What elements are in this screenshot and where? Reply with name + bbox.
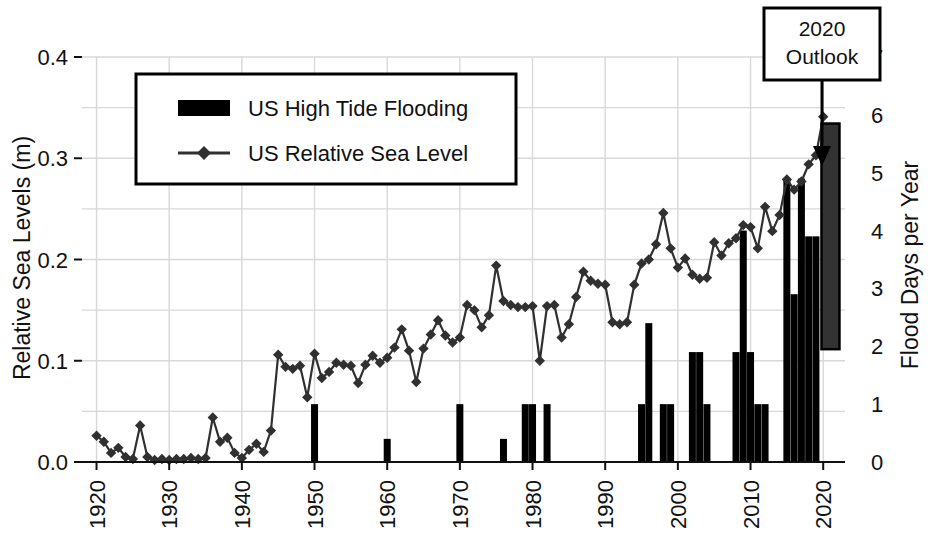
sea-level-marker [753, 243, 763, 253]
sea-level-marker [665, 243, 675, 253]
y2-tick-label: 1 [871, 392, 883, 417]
flood-bar [667, 404, 674, 462]
y-axis-title: Relative Sea Levels (m) [9, 136, 35, 380]
y-tick-label: 0.0 [37, 450, 68, 475]
sea-level-marker [273, 349, 283, 359]
y2-tick-label: 6 [871, 103, 883, 128]
sea-level-marker [745, 222, 755, 232]
sea-level-marker [426, 329, 436, 339]
flood-bar [762, 404, 769, 462]
sea-level-marker [556, 332, 566, 342]
sea-level-marker [615, 319, 625, 329]
y2-tick-label: 2 [871, 334, 883, 359]
flood-bar [645, 323, 652, 462]
flood-bar [500, 439, 507, 462]
y2-axis-title: Flood Days per Year [897, 160, 923, 369]
callout-line-1: 2020 [799, 17, 846, 40]
flood-bar [798, 179, 805, 463]
sea-level-marker [535, 356, 545, 366]
flood-bar [733, 352, 740, 462]
flood-bar [638, 404, 645, 462]
flood-bar [812, 236, 819, 462]
x-tick-label: 2010 [739, 480, 764, 529]
y2-axis-ticks: 01234567 [871, 45, 883, 475]
x-tick-label: 1990 [593, 480, 618, 529]
sea-level-marker [774, 210, 784, 220]
x-tick-label: 1970 [448, 480, 473, 529]
y-tick-label: 0.3 [37, 146, 68, 171]
flood-bar [660, 404, 667, 462]
y2-tick-label: 3 [871, 276, 883, 301]
y2-tick-label: 4 [871, 219, 883, 244]
sea-level-marker [411, 377, 421, 387]
x-tick-label: 1950 [303, 480, 328, 529]
sea-level-marker [280, 362, 290, 372]
sea-level-marker [135, 420, 145, 430]
sea-level-marker [702, 273, 712, 283]
x-tick-label: 2020 [811, 480, 836, 529]
sea-level-marker [709, 237, 719, 247]
flood-bar [529, 404, 536, 462]
legend-label-sea-level: US Relative Sea Level [248, 141, 468, 166]
flood-bar [791, 294, 798, 462]
x-tick-label: 1930 [157, 480, 182, 529]
x-tick-label: 2000 [666, 480, 691, 529]
legend-swatch-bar-icon [178, 100, 230, 116]
y-axis-ticks: 0.00.10.20.30.4 [37, 45, 82, 475]
chart-legend: US High Tide Flooding US Relative Sea Le… [136, 74, 516, 184]
flood-bar [740, 231, 747, 462]
x-tick-label: 1940 [230, 480, 255, 529]
flood-bar [311, 404, 318, 462]
x-tick-label: 1960 [375, 480, 400, 529]
x-tick-label: 1920 [85, 480, 110, 529]
flood-bar [703, 404, 710, 462]
flood-bar [783, 179, 790, 463]
sea-level-marker [767, 226, 777, 236]
y-tick-label: 0.2 [37, 248, 68, 273]
sea-level-flooding-chart: 0.00.10.20.30.4 01234567 192019301940195… [0, 0, 941, 547]
legend-box [136, 74, 516, 184]
x-axis-ticks: 1920193019401950196019701980199020002010… [85, 462, 837, 529]
sea-level-marker [607, 317, 617, 327]
sea-level-marker [353, 378, 363, 388]
sea-level-marker [738, 220, 748, 230]
flood-bar [754, 404, 761, 462]
callout-line-2: Outlook [786, 45, 859, 68]
flood-bar [696, 352, 703, 462]
y-tick-label: 0.4 [37, 45, 68, 70]
flood-bar [544, 404, 551, 462]
flood-bar [689, 352, 696, 462]
sea-level-marker [397, 324, 407, 334]
sea-level-marker [629, 280, 639, 290]
sea-level-marker [491, 260, 501, 270]
sea-level-marker [600, 280, 610, 290]
flood-bar [384, 439, 391, 462]
outlook-callout: 2020 Outlook [764, 8, 880, 166]
chart-root: 0.00.10.20.30.4 01234567 192019301940195… [0, 0, 941, 547]
sea-level-marker [484, 310, 494, 320]
flood-bar [805, 236, 812, 462]
y2-tick-label: 0 [871, 450, 883, 475]
sea-level-marker [418, 343, 428, 353]
sea-level-marker [476, 322, 486, 332]
sea-level-marker [309, 348, 319, 358]
legend-label-flooding: US High Tide Flooding [248, 96, 468, 121]
sea-level-marker [564, 319, 574, 329]
sea-level-marker [404, 345, 414, 355]
x-tick-label: 1980 [521, 480, 546, 529]
y-tick-label: 0.1 [37, 349, 68, 374]
flood-bar [522, 404, 529, 462]
sea-level-marker [433, 315, 443, 325]
sea-level-marker [208, 412, 218, 422]
y2-tick-label: 5 [871, 161, 883, 186]
sea-level-marker [346, 361, 356, 371]
sea-level-marker [266, 425, 276, 435]
sea-level-marker [651, 239, 661, 249]
sea-level-marker [622, 317, 632, 327]
flood-bar [747, 352, 754, 462]
sea-level-marker [302, 392, 312, 402]
sea-level-marker [549, 300, 559, 310]
flood-bar [456, 404, 463, 462]
sea-level-marker [760, 202, 770, 212]
sea-level-marker [571, 292, 581, 302]
